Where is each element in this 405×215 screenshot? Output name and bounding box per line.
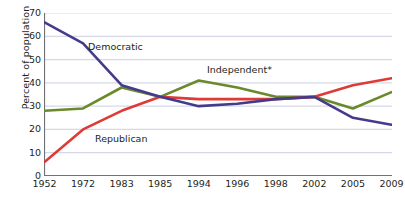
y-axis-tick-label: 70 xyxy=(1,8,41,18)
series-label-independent: Independent* xyxy=(207,64,272,75)
y-axis-tick-label: 20 xyxy=(1,124,41,134)
y-axis-tick-label: 50 xyxy=(1,55,41,65)
x-axis-tick-label: 2009 xyxy=(367,178,405,190)
y-axis-tick-label: 30 xyxy=(1,101,41,111)
x-axis-tick-labels: 1952197219831985199419961998200220052009 xyxy=(44,178,392,194)
plot-area xyxy=(44,13,392,176)
series-label-republican: Republican xyxy=(95,133,147,144)
plot-svg xyxy=(44,13,392,176)
y-axis-tick-label: 10 xyxy=(1,148,41,158)
chart-container: Percent of population 010203040506070 19… xyxy=(0,0,405,215)
series-label-democratic: Democratic xyxy=(88,41,143,52)
y-axis-tick-label: 60 xyxy=(1,31,41,41)
y-axis-tick-labels: 010203040506070 xyxy=(0,13,41,176)
y-axis-tick-label: 40 xyxy=(1,78,41,88)
